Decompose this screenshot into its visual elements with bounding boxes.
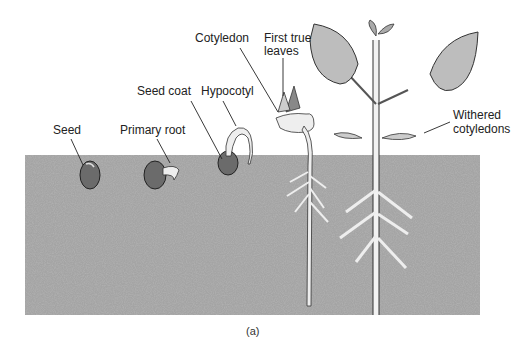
seed-germination-diagram: Seed Primary root Seed coat Hypocotyl Co… [0,0,532,343]
label-seed-coat: Seed coat [137,85,191,98]
seed-illustration [80,161,100,189]
label-cotyledon: Cotyledon [195,32,249,45]
label-seed: Seed [53,124,81,137]
label-first-true-leaves-line2: leaves [264,45,299,58]
label-primary-root: Primary root [120,124,185,137]
label-hypocotyl: Hypocotyl [201,85,254,98]
label-withered-cotyledons-line1: Withered [453,109,501,122]
leader-lines [71,48,450,165]
label-withered-cotyledons-line2: cotyledons [453,123,510,136]
figure-caption: (a) [246,325,259,337]
